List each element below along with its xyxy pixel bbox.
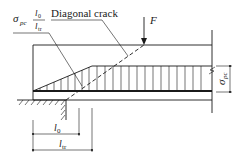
svg-text:Diagonal crack: Diagonal crack [51,7,118,19]
force-label: F [149,14,157,26]
svg-text:0: 0 [57,127,61,135]
crack-label: Diagonal crack [51,7,128,56]
svg-text:pc: pc [221,72,229,81]
beam [33,30,215,113]
stress-diagram [33,66,212,91]
right-dimension: σ pc [215,65,232,93]
svg-text:tr: tr [38,26,42,32]
svg-text:tr: tr [62,143,67,151]
load-arrow: F [141,14,157,45]
svg-text:0: 0 [38,13,41,19]
prestress-transfer-diagram: F σ pc l 0 l tr Diagonal crack σ pc [0,0,242,163]
sigma-symbol: σ [13,12,19,24]
svg-text:pc: pc [19,19,28,27]
support [17,100,66,120]
bottom-dimensions: l 0 l tr [32,108,93,152]
